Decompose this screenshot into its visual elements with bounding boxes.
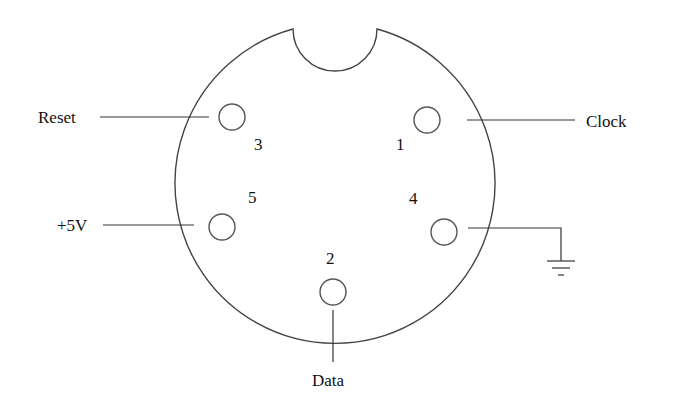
reset-label: Reset [38, 108, 76, 127]
connector-body-outline [175, 29, 495, 343]
pin-2-number: 2 [326, 249, 335, 268]
connector-pinout-diagram: Reset 3 Clock 1 +5V 5 4 Data 2 [0, 0, 673, 407]
pin-5-number: 5 [248, 188, 257, 207]
pin-1-number: 1 [396, 135, 405, 154]
pin-4-number: 4 [409, 189, 418, 208]
pin-4-group: 4 [409, 189, 575, 275]
data-label: Data [312, 371, 345, 390]
pin-1-socket [414, 107, 440, 133]
pin-3-group: Reset 3 [38, 104, 263, 154]
ground-lead-line [468, 228, 561, 261]
pin-2-socket [320, 279, 346, 305]
pin-3-socket [219, 104, 245, 130]
pin-4-socket [431, 219, 457, 245]
pin-1-group: Clock 1 [396, 107, 627, 154]
clock-label: Clock [586, 112, 627, 131]
vcc-label: +5V [57, 216, 88, 235]
pin-5-group: +5V 5 [57, 188, 257, 240]
pin-5-socket [209, 214, 235, 240]
ground-icon [547, 261, 575, 275]
pin-2-group: Data 2 [312, 249, 346, 390]
pin-3-number: 3 [254, 135, 263, 154]
